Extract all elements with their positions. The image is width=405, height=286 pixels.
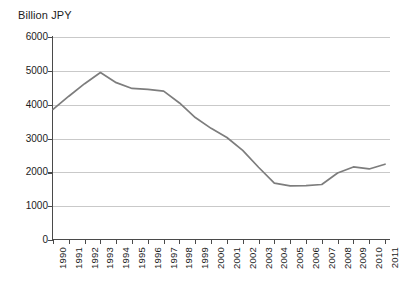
x-axis-tick-mark [195, 240, 196, 244]
x-axis-tick-label: 2009 [357, 247, 368, 269]
x-axis-tick-mark [148, 240, 149, 244]
y-axis-ticks: 0100020003000400050006000 [0, 0, 48, 286]
x-axis-tick-mark [290, 240, 291, 244]
x-axis-tick-label: 2006 [310, 247, 321, 269]
x-axis-tick-label: 1990 [57, 247, 68, 269]
y-axis-tick-label: 1000 [14, 201, 48, 211]
y-axis-tick-label: 6000 [14, 32, 48, 42]
x-axis-tick-label: 1995 [136, 247, 147, 269]
x-axis-tick-mark [369, 240, 370, 244]
gridlines [53, 37, 390, 240]
x-axis-tick-mark [164, 240, 165, 244]
x-axis-tick-mark [322, 240, 323, 244]
gridline [53, 172, 390, 173]
x-axis-tick-label: 1996 [152, 247, 163, 269]
x-axis-tick-label: 2004 [278, 247, 289, 269]
y-axis-line [52, 36, 53, 241]
x-axis-tick-mark [100, 240, 101, 244]
x-axis-tick-mark [306, 240, 307, 244]
x-axis-tick-mark [338, 240, 339, 244]
y-axis-tick-label: 2000 [14, 167, 48, 177]
x-axis-tick-mark [132, 240, 133, 244]
x-axis-tick-mark [69, 240, 70, 244]
x-axis-tick-label: 2003 [263, 247, 274, 269]
gridline [53, 71, 390, 72]
gridline [53, 206, 390, 207]
x-axis-tick-mark [227, 240, 228, 244]
x-axis-tick-mark [85, 240, 86, 244]
x-axis-tick-label: 2005 [294, 247, 305, 269]
x-axis-tick-label: 1999 [199, 247, 210, 269]
x-axis-tick-label: 1997 [168, 247, 179, 269]
gridline [53, 37, 390, 38]
gridline [53, 139, 390, 140]
line-chart: Billion JPY 0100020003000400050006000 19… [0, 0, 405, 286]
y-axis-tick-label: 4000 [14, 100, 48, 110]
x-axis-tick-mark [243, 240, 244, 244]
x-axis-tick-label: 2002 [247, 247, 258, 269]
x-axis-tick-mark [385, 240, 386, 244]
x-axis-tick-mark [211, 240, 212, 244]
x-axis-tick-mark [259, 240, 260, 244]
x-axis-tick-mark [53, 240, 54, 244]
x-axis-tick-label: 1992 [89, 247, 100, 269]
x-axis-tick-mark [353, 240, 354, 244]
y-axis-tick-label: 3000 [14, 134, 48, 144]
x-axis-tick-label: 2001 [231, 247, 242, 269]
x-axis-tick-mark [116, 240, 117, 244]
x-axis-tick-label: 2000 [215, 247, 226, 269]
x-axis-tick-label: 2010 [373, 247, 384, 269]
x-axis-tick-label: 2011 [389, 247, 400, 268]
x-axis-tick-mark [274, 240, 275, 244]
x-axis-tick-label: 1991 [73, 247, 84, 269]
x-axis-tick-label: 2007 [326, 247, 337, 269]
x-axis-tick-mark [179, 240, 180, 244]
x-axis-tick-label: 1993 [104, 247, 115, 269]
x-axis-tick-label: 2008 [342, 247, 353, 269]
x-axis-line [52, 239, 390, 240]
y-axis-tick-label: 5000 [14, 66, 48, 76]
x-axis-tick-label: 1994 [120, 247, 131, 269]
gridline [53, 105, 390, 106]
x-axis-tick-label: 1998 [183, 247, 194, 269]
y-axis-tick-label: 0 [14, 235, 48, 245]
